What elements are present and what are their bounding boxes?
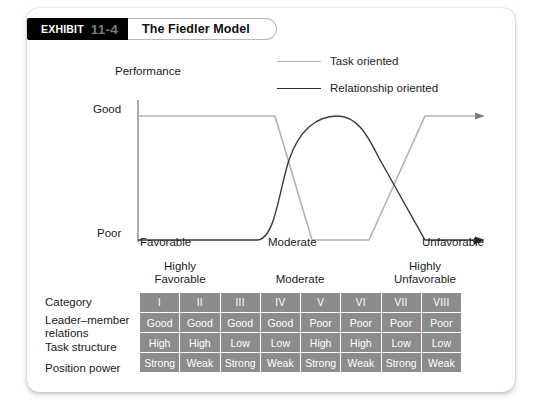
row-label-task-structure: Task structure (45, 341, 117, 354)
relationship-line-swatch-icon (277, 88, 321, 89)
table-row-task-structure: High High Low Low High High Low Low (140, 333, 462, 353)
relationship-oriented-line (138, 116, 477, 240)
cell-category-4: IV (260, 293, 300, 313)
legend-item-relationship-oriented: Relationship oriented (277, 82, 438, 94)
y-axis-tick-good: Good (93, 103, 121, 115)
band-highly-favorable: Highly Favorable (135, 260, 225, 286)
cell-position-power-3: Strong (220, 353, 260, 373)
y-axis-title: Performance (115, 65, 181, 77)
grid-wrap: Category Leader–member relations Task st… (27, 292, 515, 384)
fiedler-chart: Performance Good Poor Favorable Moderate… (27, 40, 515, 275)
exhibit-number: 11-4 (91, 22, 118, 37)
cell-category-5: V (301, 293, 341, 313)
cell-relations-6: Poor (341, 313, 381, 333)
task-oriented-arrow-icon (475, 112, 485, 119)
x-axis-tick-favorable: Favorable (140, 236, 191, 248)
cell-position-power-8: Weak (421, 353, 461, 373)
band-highly-unfavorable: Highly Unfavorable (375, 260, 475, 286)
cell-task-structure-1: High (140, 333, 180, 353)
cell-task-structure-2: High (180, 333, 220, 353)
task-line-swatch-icon (277, 61, 321, 62)
cell-relations-8: Poor (421, 313, 461, 333)
cell-position-power-6: Weak (341, 353, 381, 373)
cell-task-structure-7: Low (381, 333, 421, 353)
cell-relations-3: Good (220, 313, 260, 333)
cell-task-structure-3: Low (220, 333, 260, 353)
cell-relations-1: Good (140, 313, 180, 333)
band-highly-unfavorable-line1: Highly (375, 260, 475, 273)
cell-category-3: III (220, 293, 260, 313)
legend-item-task-oriented: Task oriented (277, 55, 398, 67)
band-highly-favorable-line2: Favorable (135, 273, 225, 286)
cell-position-power-1: Strong (140, 353, 180, 373)
row-label-leader-member-relations: Leader–member relations (45, 314, 129, 339)
fiedler-data-grid: I II III IV V VI VII VIII Good Good Good… (139, 292, 462, 373)
cell-position-power-2: Weak (180, 353, 220, 373)
cell-relations-5: Poor (301, 313, 341, 333)
cell-category-8: VIII (421, 293, 461, 313)
cell-category-7: VII (381, 293, 421, 313)
exhibit-tag: EXHIBIT 11-4 (27, 18, 128, 40)
row-label-leader-member-line2: relations (45, 327, 129, 340)
page-title: The Fiedler Model (142, 22, 250, 36)
exhibit-title-pill: The Fiedler Model (128, 18, 277, 40)
row-label-position-power: Position power (45, 362, 120, 375)
cell-position-power-4: Weak (260, 353, 300, 373)
cell-task-structure-8: Low (421, 333, 461, 353)
exhibit-header: EXHIBIT 11-4 The Fiedler Model (27, 18, 277, 40)
task-oriented-line (138, 116, 477, 240)
cell-position-power-7: Strong (381, 353, 421, 373)
cell-relations-7: Poor (381, 313, 421, 333)
y-axis-tick-poor: Poor (97, 227, 121, 239)
band-highly-favorable-line1: Highly (135, 260, 225, 273)
cell-relations-2: Good (180, 313, 220, 333)
cell-category-1: I (140, 293, 180, 313)
table-row-position-power: Strong Weak Strong Weak Strong Weak Stro… (140, 353, 462, 373)
exhibit-label: EXHIBIT (41, 23, 84, 35)
cell-relations-4: Good (260, 313, 300, 333)
x-axis-tick-unfavorable: Unfavorable (422, 236, 484, 248)
cell-position-power-5: Strong (301, 353, 341, 373)
table-row-category: I II III IV V VI VII VIII (140, 293, 462, 313)
table-row-leader-member-relations: Good Good Good Good Poor Poor Poor Poor (140, 313, 462, 333)
x-axis-tick-moderate: Moderate (268, 236, 317, 248)
cell-task-structure-6: High (341, 333, 381, 353)
band-headers: Highly Favorable Moderate Highly Unfavor… (27, 260, 515, 292)
legend-label-relationship: Relationship oriented (330, 82, 438, 94)
cell-task-structure-4: Low (260, 333, 300, 353)
band-moderate: Moderate (255, 273, 345, 286)
row-label-leader-member-line1: Leader–member (45, 314, 129, 327)
exhibit-card: EXHIBIT 11-4 The Fiedler Model Performan… (27, 8, 515, 392)
legend-label-task: Task oriented (330, 55, 398, 67)
row-label-category: Category (45, 296, 92, 309)
band-highly-unfavorable-line2: Unfavorable (375, 273, 475, 286)
cell-category-2: II (180, 293, 220, 313)
fiedler-table-block: Highly Favorable Moderate Highly Unfavor… (27, 260, 515, 384)
cell-task-structure-5: High (301, 333, 341, 353)
cell-category-6: VI (341, 293, 381, 313)
